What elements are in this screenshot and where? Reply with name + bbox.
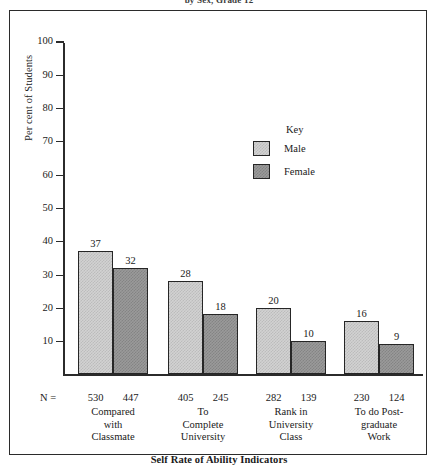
y-tick-80: 80 <box>56 108 64 109</box>
category-label-line: with <box>68 419 158 432</box>
y-tick-10: 10 <box>56 341 64 342</box>
y-tick-label-70: 70 <box>43 134 54 147</box>
y-tick-label-40: 40 <box>43 234 54 247</box>
y-tick-30: 30 <box>56 275 64 276</box>
y-tick-50: 50 <box>56 208 64 209</box>
category-label-line: Class <box>246 431 336 444</box>
bar-value-label: 20 <box>268 295 279 307</box>
x-axis-title: Self Rate of Ability Indicators <box>10 454 428 465</box>
legend-label-female: Female <box>284 166 315 177</box>
y-tick-label-100: 100 <box>37 34 53 47</box>
y-tick-70: 70 <box>56 141 64 142</box>
figure-caption: by Sex, Grade 12 <box>0 0 438 6</box>
category-label-group-1: ComparedwithClassmate <box>68 406 158 444</box>
bar-female-group-2: 18 <box>203 314 238 374</box>
y-axis-title: Per cent of Students <box>23 127 34 141</box>
bar-value-label: 28 <box>180 268 191 280</box>
y-tick-label-10: 10 <box>43 334 54 347</box>
bar-value-label: 16 <box>356 308 367 320</box>
bar-value-label: 10 <box>303 328 314 340</box>
plot-area: 102030405060708090100 372820163218109 <box>63 31 423 376</box>
y-tick-90: 90 <box>56 75 64 76</box>
category-label-line: University <box>246 419 336 432</box>
bar-value-label: 18 <box>215 301 226 313</box>
category-label-line: Complete <box>158 419 248 432</box>
legend-label-male: Male <box>284 143 306 154</box>
bar-value-label: 37 <box>90 238 101 250</box>
legend-item-female: Female <box>253 164 363 179</box>
bar-male-group-3: 20 <box>256 308 291 375</box>
n-value-male-group-4: 230 <box>354 392 370 403</box>
n-value-female-group-1: 447 <box>123 392 139 403</box>
category-label-line: To <box>158 406 248 419</box>
y-tick-label-30: 30 <box>43 268 54 281</box>
x-axis-line <box>63 374 423 376</box>
y-tick-label-60: 60 <box>43 168 54 181</box>
n-value-female-group-3: 139 <box>301 392 317 403</box>
n-value-male-group-2: 405 <box>178 392 194 403</box>
legend-item-male: Male <box>253 141 363 156</box>
category-label-line: Rank in <box>246 406 336 419</box>
legend-title: Key <box>286 124 363 135</box>
y-tick-label-90: 90 <box>43 68 54 81</box>
y-tick-label-80: 80 <box>43 101 54 114</box>
category-label-line: Work <box>334 431 424 444</box>
category-label-line: Classmate <box>68 431 158 444</box>
bar-female-group-4: 9 <box>379 344 414 374</box>
chart-legend: Key Male Female <box>253 124 363 187</box>
chart-frame: Per cent of Students 1020304050607080901… <box>9 10 427 455</box>
n-value-female-group-2: 245 <box>213 392 229 403</box>
category-label-group-4: To do Post-graduateWork <box>334 406 424 444</box>
bar-female-group-1: 32 <box>113 268 148 375</box>
y-axis-line <box>63 43 65 376</box>
category-label-line: To do Post- <box>334 406 424 419</box>
legend-swatch-male <box>253 141 270 156</box>
bar-female-group-3: 10 <box>291 341 326 374</box>
category-label-line: University <box>158 431 248 444</box>
category-label-group-3: Rank inUniversityClass <box>246 406 336 444</box>
category-label-group-2: ToCompleteUniversity <box>158 406 248 444</box>
y-tick-60: 60 <box>56 175 64 176</box>
n-value-male-group-3: 282 <box>266 392 282 403</box>
y-tick-100: 100 <box>56 41 64 42</box>
category-label-line: Compared <box>68 406 158 419</box>
n-value-female-group-4: 124 <box>389 392 405 403</box>
y-tick-label-50: 50 <box>43 201 54 214</box>
legend-swatch-female <box>253 164 270 179</box>
y-tick-20: 20 <box>56 308 64 309</box>
n-value-male-group-1: 530 <box>88 392 104 403</box>
y-tick-label-20: 20 <box>43 301 54 314</box>
n-equals-label: N = <box>40 392 56 403</box>
y-tick-40: 40 <box>56 241 64 242</box>
bar-male-group-2: 28 <box>168 281 203 374</box>
bar-value-label: 9 <box>394 331 399 343</box>
bar-male-group-1: 37 <box>78 251 113 374</box>
bar-male-group-4: 16 <box>344 321 379 374</box>
category-label-line: graduate <box>334 419 424 432</box>
bar-value-label: 32 <box>125 255 136 267</box>
